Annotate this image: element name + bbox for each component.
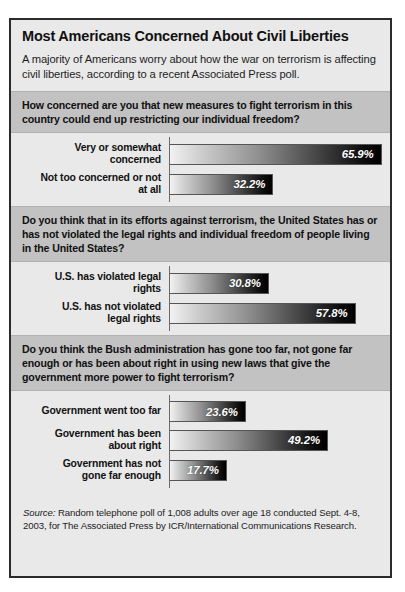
bar-value-label: 65.9% (342, 148, 374, 160)
bar-track: 32.2% (169, 172, 390, 197)
bar-fill: 49.2% (170, 430, 328, 451)
bar-row-label-line1: Very or somewhat (11, 142, 161, 154)
bar-value-label: 23.6% (206, 406, 238, 418)
infographic-card: Most Americans Concerned About Civil Lib… (9, 18, 392, 578)
bar-row-label-line1: U.S. has violated legal (11, 271, 161, 283)
bar-row-label-line2: at all (11, 184, 161, 196)
header: Most Americans Concerned About Civil Lib… (11, 20, 390, 91)
bar-row: Government went too far 23.6% (11, 400, 390, 423)
bar-row: Government has not gone far enough 17.7% (11, 458, 390, 483)
bar-row-label: U.S. has violated legal rights (11, 271, 169, 296)
question-text-3: Do you think the Bush administration has… (22, 342, 379, 384)
bar-row: Government has been about right 49.2% (11, 428, 390, 453)
source-text: Random telephone poll of 1,008 adults ov… (23, 507, 360, 531)
bar-row-label-line2: legal rights (11, 313, 161, 325)
bar-row: Not too concerned or not at all 32.2% (11, 172, 390, 197)
question-text-2: Do you think that in its efforts against… (22, 213, 379, 255)
bar-fill: 30.8% (170, 273, 269, 294)
question-band-3: Do you think the Bush administration has… (11, 335, 390, 391)
bar-value-label: 30.8% (229, 277, 261, 289)
bar-row: Very or somewhat concerned 65.9% (11, 142, 390, 167)
bar-group-2: U.S. has violated legal rights 30.8% U.S… (11, 262, 390, 335)
page-subtitle: A majority of Americans worry about how … (22, 52, 379, 82)
bar-group-3: Government went too far 23.6% Government… (11, 391, 390, 492)
bar-value-label: 49.2% (288, 434, 320, 446)
source-prefix: Source: (23, 507, 55, 518)
bar-track: 57.8% (169, 301, 390, 326)
bar-row-label-line2: gone far enough (11, 470, 161, 482)
bar-row-label-line1: Government has not (11, 458, 161, 470)
question-band-2: Do you think that in its efforts against… (11, 206, 390, 262)
bar-value-label: 32.2% (234, 178, 266, 190)
question-band-1: How concerned are you that new measures … (11, 91, 390, 133)
bar-row: U.S. has violated legal rights 30.8% (11, 271, 390, 296)
bar-row-label: Government has not gone far enough (11, 458, 169, 483)
bar-fill: 32.2% (170, 174, 273, 195)
bar-track: 49.2% (169, 428, 390, 453)
bar-fill: 65.9% (170, 144, 382, 165)
bar-row-label-line1: Not too concerned or not (11, 172, 161, 184)
bar-row: U.S. has not violated legal rights 57.8% (11, 301, 390, 326)
bar-row-label-line1: Government went too far (11, 405, 161, 417)
bar-row-label-line1: Government has been (11, 428, 161, 440)
page-title: Most Americans Concerned About Civil Lib… (22, 29, 379, 45)
bar-track: 65.9% (169, 142, 390, 167)
bar-track: 17.7% (169, 458, 390, 483)
bar-row-label: Government went too far (11, 400, 169, 423)
question-text-1: How concerned are you that new measures … (22, 98, 379, 126)
bar-fill: 57.8% (170, 303, 356, 324)
bar-value-label: 17.7% (187, 464, 219, 476)
bar-track: 23.6% (169, 400, 390, 423)
bar-row-label-line2: rights (11, 283, 161, 295)
bar-fill: 17.7% (170, 460, 227, 481)
bar-group-1: Very or somewhat concerned 65.9% Not too… (11, 133, 390, 206)
source-note: Source: Random telephone poll of 1,008 a… (11, 492, 390, 540)
bar-row-label: Very or somewhat concerned (11, 142, 169, 167)
bar-track: 30.8% (169, 271, 390, 296)
bar-row-label-line2: concerned (11, 154, 161, 166)
bar-row-label: Government has been about right (11, 428, 169, 453)
bar-fill: 23.6% (170, 401, 246, 422)
bar-row-label-line1: U.S. has not violated (11, 301, 161, 313)
bar-value-label: 57.8% (316, 307, 348, 319)
bar-row-label: Not too concerned or not at all (11, 172, 169, 197)
bar-row-label: U.S. has not violated legal rights (11, 301, 169, 326)
bar-row-label-line2: about right (11, 440, 161, 452)
